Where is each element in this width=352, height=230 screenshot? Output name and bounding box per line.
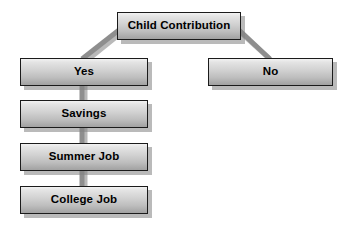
node-yes[interactable]: Yes [20, 58, 148, 86]
node-summer-job-label: Summer Job [49, 151, 120, 163]
edge-child-contribution-to-yes [82, 30, 119, 59]
node-summer-job[interactable]: Summer Job [20, 143, 148, 171]
node-yes-label: Yes [74, 66, 94, 78]
node-savings-label: Savings [62, 108, 107, 120]
node-child-contribution[interactable]: Child Contribution [117, 12, 241, 40]
node-no-label: No [263, 66, 279, 78]
node-college-job-label: College Job [51, 194, 117, 206]
node-college-job[interactable]: College Job [20, 186, 148, 214]
node-savings[interactable]: Savings [20, 100, 148, 128]
node-child-contribution-label: Child Contribution [128, 20, 231, 32]
node-no[interactable]: No [208, 58, 333, 86]
edge-child-contribution-to-no [239, 30, 270, 59]
flowchart-diagram: Child Contribution Yes No Savings Summer… [0, 0, 352, 230]
